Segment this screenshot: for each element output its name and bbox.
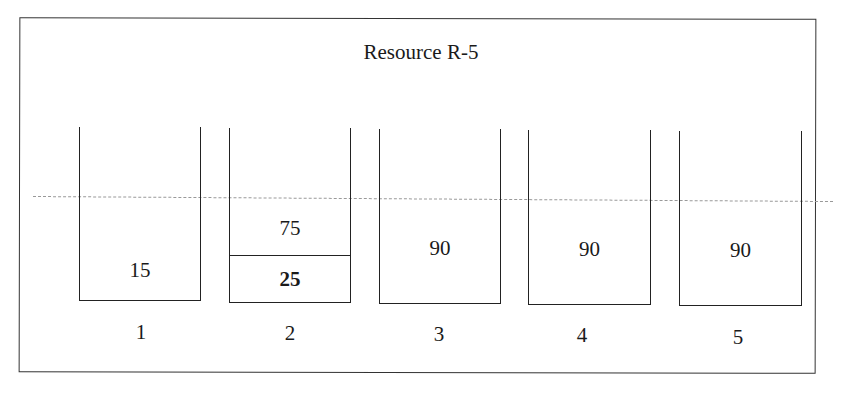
bucket-3: 90 xyxy=(379,129,501,304)
bucket-4: 90 xyxy=(528,130,651,305)
bucket-3-value: 90 xyxy=(380,236,500,261)
bucket-4-value: 90 xyxy=(529,237,650,262)
bucket-5: 90 xyxy=(679,131,802,306)
bucket-1-value: 15 xyxy=(80,258,200,283)
bucket-2-label: 2 xyxy=(270,321,310,346)
diagram-title: Resource R-5 xyxy=(0,40,856,65)
bucket-2-lower-value: 25 xyxy=(280,267,301,292)
bucket-4-label: 4 xyxy=(562,323,602,348)
bucket-2: 75 25 xyxy=(229,128,351,303)
bucket-2-highlighted-segment: 25 xyxy=(230,255,350,302)
bucket-5-label: 5 xyxy=(718,325,758,350)
bucket-1-label: 1 xyxy=(121,320,161,345)
bucket-5-value: 90 xyxy=(680,238,801,263)
bucket-3-label: 3 xyxy=(419,322,459,347)
bucket-1: 15 xyxy=(79,127,201,301)
bucket-2-upper-value: 75 xyxy=(230,216,350,241)
